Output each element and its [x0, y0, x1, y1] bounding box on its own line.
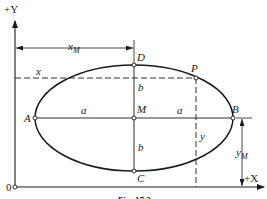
ellipse-diagram: +Y +X 0 xM x y yM a a	[0, 0, 267, 199]
semi-axis-a-left-label: a	[81, 104, 87, 116]
semi-axis-b-top-label: b	[138, 81, 144, 93]
dimension-x-m: xM	[16, 40, 134, 65]
svg-text:C: C	[137, 172, 145, 184]
svg-text:D: D	[136, 51, 145, 63]
point-b: B	[231, 103, 239, 120]
y-axis-label: +Y	[4, 3, 18, 15]
svg-text:A: A	[23, 112, 31, 124]
point-c: C	[132, 169, 145, 184]
x-axis-label: +X	[244, 172, 258, 184]
svg-text:M: M	[136, 103, 147, 115]
x-m-label: xM	[67, 40, 81, 55]
figure-caption: Fig. 17.3	[118, 195, 151, 199]
point-p: P	[190, 62, 198, 80]
y-label: y	[199, 130, 205, 142]
y-axis: +Y	[4, 3, 18, 187]
x-label: x	[35, 65, 41, 77]
semi-axis-b-bottom-label: b	[138, 141, 144, 153]
svg-text:B: B	[232, 103, 239, 115]
semi-axis-a-right-label: a	[177, 104, 183, 116]
svg-text:P: P	[190, 62, 198, 74]
origin-label: 0	[6, 181, 12, 193]
